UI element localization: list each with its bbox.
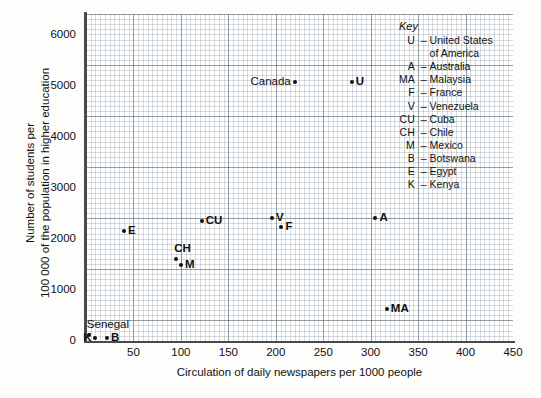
legend-name: Australia — [430, 60, 493, 73]
legend-row: CU–Cuba — [399, 113, 493, 126]
legend-name: Kenya — [430, 178, 493, 191]
legend-spacer — [418, 47, 430, 60]
legend-row: CH–Chile — [399, 126, 493, 139]
legend-abbr: K — [399, 178, 418, 191]
legend-name: Egypt — [430, 165, 493, 178]
legend-dash: – — [418, 126, 430, 139]
legend-dash: – — [418, 113, 430, 126]
legend-abbr: E — [399, 165, 418, 178]
legend-abbr: V — [399, 100, 418, 113]
data-point — [200, 219, 204, 223]
legend-row: B–Botswana — [399, 152, 493, 165]
legend-name: Malaysia — [430, 73, 493, 86]
x-tick-label: 400 — [446, 346, 486, 358]
data-point-label: CH — [174, 242, 191, 254]
legend-row: A–Australia — [399, 60, 493, 73]
legend-dash: – — [418, 73, 430, 86]
legend-dash: – — [418, 86, 430, 99]
legend-row: U–United States — [399, 34, 493, 47]
scatter-chart-figure: 0100020003000400050006000 50100150200250… — [0, 0, 541, 398]
data-point-label: M — [185, 258, 195, 270]
data-point-label: Senegal — [87, 318, 129, 330]
legend-name: Botswana — [430, 152, 493, 165]
legend-title: Key — [399, 20, 493, 33]
legend-abbr: B — [399, 152, 418, 165]
x-tick-label: 250 — [303, 346, 343, 358]
data-point-label: CU — [206, 214, 223, 226]
legend-spacer — [399, 47, 418, 60]
data-point-label: E — [128, 224, 136, 236]
legend-name-continuation: of America — [430, 47, 493, 60]
x-axis-line — [84, 341, 515, 344]
legend-abbr: F — [399, 86, 418, 99]
legend-abbr: CU — [399, 113, 418, 126]
legend-dash: – — [418, 165, 430, 178]
legend-name: France — [430, 86, 493, 99]
legend-abbr: U — [399, 34, 418, 47]
legend-abbr: MA — [399, 73, 418, 86]
x-tick-label: 200 — [256, 346, 296, 358]
legend-key: Key U–United Statesof AmericaA–Australia… — [399, 20, 493, 191]
legend-row-continuation: of America — [399, 47, 493, 60]
legend-name: Mexico — [430, 139, 493, 152]
legend-name: United States — [430, 34, 493, 47]
legend-name: Venezuela — [430, 100, 493, 113]
data-point-label: A — [379, 211, 387, 223]
data-point-label: V — [276, 211, 284, 223]
legend-row: MA–Malaysia — [399, 73, 493, 86]
y-axis-line — [84, 12, 87, 343]
legend-dash: – — [418, 139, 430, 152]
legend-row: F–France — [399, 86, 493, 99]
data-point — [350, 80, 354, 84]
y-axis-title-line1: Number of students per — [23, 23, 38, 343]
x-tick-label: 150 — [208, 346, 248, 358]
legend-name: Cuba — [430, 113, 493, 126]
x-tick-label: 300 — [351, 346, 391, 358]
legend-row: K–Kenya — [399, 178, 493, 191]
data-point-label: U — [356, 75, 364, 87]
legend-abbr: A — [399, 60, 418, 73]
legend-table: U–United Statesof AmericaA–AustraliaMA–M… — [399, 34, 493, 191]
legend-row: V–Venezuela — [399, 100, 493, 113]
data-point-label: F — [285, 220, 292, 232]
legend-dash: – — [418, 60, 430, 73]
legend-dash: – — [418, 178, 430, 191]
legend-row: M–Mexico — [399, 139, 493, 152]
data-point-label: K — [83, 331, 91, 343]
data-point — [293, 80, 297, 84]
x-tick-label: 50 — [113, 346, 153, 358]
legend-abbr: CH — [399, 126, 418, 139]
y-axis-title-line2: 100 000 of the population in higher educ… — [38, 23, 53, 343]
legend-dash: – — [418, 100, 430, 113]
data-point-label: B — [111, 331, 119, 343]
x-tick-label: 100 — [161, 346, 201, 358]
y-axis-title: Number of students per 100 000 of the po… — [23, 23, 53, 343]
data-point — [105, 336, 109, 340]
x-axis-title: Circulation of daily newspapers per 1000… — [86, 366, 513, 378]
data-point-label: Canada — [250, 75, 290, 87]
x-tick-label: 450 — [493, 346, 533, 358]
legend-abbr: M — [399, 139, 418, 152]
x-tick-label: 350 — [398, 346, 438, 358]
data-point-label: MA — [391, 302, 409, 314]
legend-dash: – — [418, 34, 430, 47]
legend-name: Chile — [430, 126, 493, 139]
legend-dash: – — [418, 152, 430, 165]
legend-row: E–Egypt — [399, 165, 493, 178]
